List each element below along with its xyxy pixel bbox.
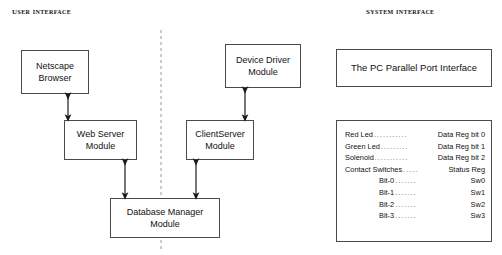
register-row: Bit-0.......Sw0 bbox=[345, 175, 485, 187]
register-label: Green Led bbox=[345, 141, 380, 153]
box-client-server-line1: ClientServer bbox=[195, 128, 245, 140]
register-dot-leader: ......... bbox=[381, 141, 437, 153]
register-value: Status Reg bbox=[448, 164, 485, 176]
register-dot-leader: ....... bbox=[395, 199, 469, 211]
box-device-driver-line1: Device Driver bbox=[236, 54, 290, 66]
register-dot-leader: ....... bbox=[395, 175, 469, 187]
architecture-diagram: User Interface System Interface Netscape… bbox=[0, 0, 502, 255]
box-database-manager-module: Database Manager Module bbox=[110, 198, 220, 238]
register-dot-leader: ..... bbox=[403, 164, 447, 176]
register-value: Data Reg bit 2 bbox=[438, 152, 485, 164]
register-label: Solenoid bbox=[345, 152, 374, 164]
register-map-rows: Red Led...........Data Reg bit 0Green Le… bbox=[345, 129, 485, 222]
register-label: Bit-3 bbox=[379, 210, 394, 222]
box-netscape-browser: Netscape Browser bbox=[21, 50, 89, 94]
box-database-line2: Module bbox=[127, 218, 204, 230]
register-row: Solenoid...........Data Reg bit 2 bbox=[345, 152, 485, 164]
register-value: Data Reg bit 1 bbox=[438, 141, 485, 153]
register-row: Red Led...........Data Reg bit 0 bbox=[345, 129, 485, 141]
box-client-server-module: ClientServer Module bbox=[186, 120, 254, 160]
box-device-driver-line2: Module bbox=[236, 66, 290, 78]
register-row: Bit-1.......Sw1 bbox=[345, 187, 485, 199]
box-device-driver-module: Device Driver Module bbox=[225, 44, 301, 88]
register-label: Contact Switches bbox=[345, 164, 402, 176]
box-web-server-line1: Web Server bbox=[77, 128, 124, 140]
box-netscape-line2: Browser bbox=[36, 72, 74, 84]
register-row: Bit-3.......Sw3 bbox=[345, 210, 485, 222]
box-database-line1: Database Manager bbox=[127, 206, 204, 218]
register-dot-leader: ....... bbox=[395, 210, 469, 222]
box-web-server-module: Web Server Module bbox=[64, 120, 137, 160]
register-row: Contact Switches.....Status Reg bbox=[345, 164, 485, 176]
register-value: Data Reg bit 0 bbox=[438, 129, 485, 141]
register-map-panel: Red Led...........Data Reg bit 0Green Le… bbox=[336, 120, 492, 242]
register-row: Green Led.........Data Reg bit 1 bbox=[345, 141, 485, 153]
register-value: Sw2 bbox=[471, 199, 485, 211]
register-value: Sw3 bbox=[471, 210, 485, 222]
box-web-server-line2: Module bbox=[77, 140, 124, 152]
register-label: Bit-1 bbox=[379, 187, 394, 199]
register-label: Red Led bbox=[345, 129, 373, 141]
register-dot-leader: ........... bbox=[374, 129, 437, 141]
register-dot-leader: ....... bbox=[395, 187, 469, 199]
register-label: Bit-2 bbox=[379, 199, 394, 211]
register-label: Bit-0 bbox=[379, 175, 394, 187]
register-value: Sw0 bbox=[471, 175, 485, 187]
register-dot-leader: ........... bbox=[375, 152, 437, 164]
register-value: Sw1 bbox=[471, 187, 485, 199]
box-client-server-line2: Module bbox=[195, 140, 245, 152]
box-parallel-line1: The PC Parallel Port Interface bbox=[351, 62, 477, 74]
register-row: Bit-2.......Sw2 bbox=[345, 199, 485, 211]
box-netscape-line1: Netscape bbox=[36, 60, 74, 72]
box-parallel-port-interface: The PC Parallel Port Interface bbox=[336, 49, 492, 87]
